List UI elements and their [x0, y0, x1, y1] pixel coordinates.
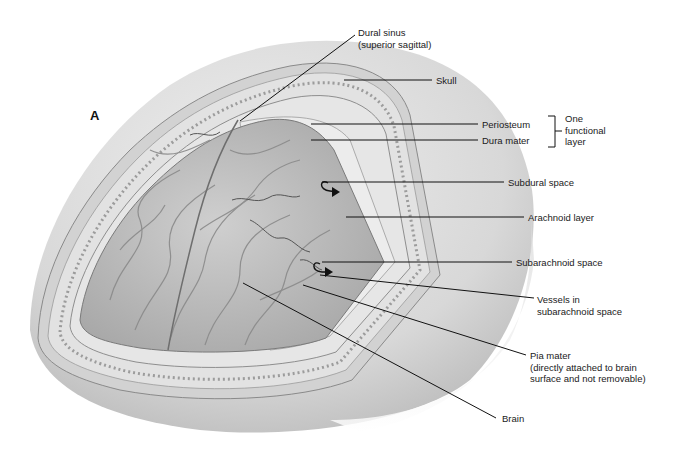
label-dural-sinus: Dural sinus (superior sagittal): [358, 27, 431, 50]
label-vessels-line2: subarachnoid space: [537, 306, 622, 318]
label-functional-line2: functional: [565, 125, 606, 137]
label-pia-line3: surface and not removable): [530, 373, 646, 385]
functional-layer-bracket: [548, 116, 562, 147]
label-brain: Brain: [502, 413, 524, 425]
label-vessels-line1: Vessels in: [537, 294, 622, 306]
label-arachnoid-layer: Arachnoid layer: [528, 212, 594, 224]
label-skull: Skull: [436, 75, 457, 87]
panel-letter: A: [90, 108, 99, 123]
label-dura-mater: Dura mater: [482, 135, 530, 147]
label-periosteum: Periosteum: [482, 119, 530, 131]
meninges-diagram: A Dural sinus (superior sagittal) Skull …: [0, 0, 694, 456]
label-functional-line3: layer: [565, 136, 606, 148]
label-pia-mater: Pia mater (directly attached to brain su…: [530, 350, 646, 385]
label-pia-line2: (directly attached to brain: [530, 362, 646, 374]
label-vessels: Vessels in subarachnoid space: [537, 294, 622, 317]
label-subarachnoid-space: Subarachnoid space: [516, 257, 603, 269]
label-dural-sinus-line1: Dural sinus: [358, 27, 431, 39]
label-pia-line1: Pia mater: [530, 350, 646, 362]
label-dural-sinus-line2: (superior sagittal): [358, 39, 431, 51]
label-functional-line1: One: [565, 113, 606, 125]
brain-meninges-illustration: [0, 0, 694, 456]
label-subdural-space: Subdural space: [508, 177, 574, 189]
label-one-functional-layer: One functional layer: [565, 113, 606, 148]
